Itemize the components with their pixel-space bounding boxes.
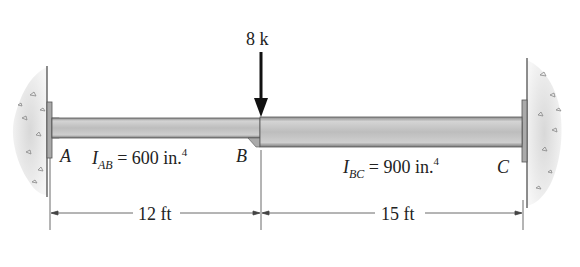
- dimension-ab-label: 12 ft: [138, 205, 172, 223]
- point-b-label: B: [236, 147, 247, 165]
- point-c-label: C: [497, 158, 509, 176]
- point-load-arrow: [254, 52, 268, 117]
- inertia-ab-label: IAB = 600 in.4: [92, 149, 187, 167]
- load-label: 8 k: [246, 30, 269, 48]
- point-a-label: A: [60, 147, 71, 165]
- dimension-bc-label: 15 ft: [381, 205, 415, 223]
- inertia-bc-label: IBC = 900 in.4: [343, 158, 439, 176]
- beam-diagram: [0, 0, 580, 267]
- beam-segment-ab: [52, 118, 260, 147]
- beam-segment-bc: [260, 117, 522, 147]
